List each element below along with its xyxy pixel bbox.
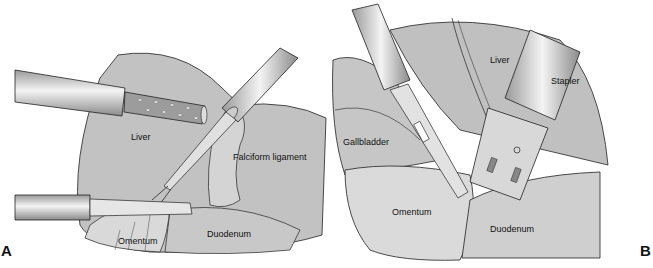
label-omentum-a: Omentum (118, 237, 158, 246)
trocar-lower-a (15, 195, 90, 220)
illustration-canvas (0, 0, 653, 268)
label-omentum-b: Omentum (392, 208, 432, 217)
label-gallbladder-b: Gallbladder (343, 138, 389, 147)
label-liver-a: Liver (131, 133, 151, 142)
panel-letter-b: B (640, 243, 651, 258)
panel-b-drawing (333, 4, 609, 260)
label-liver-b: Liver (490, 56, 510, 65)
label-stapler-b: Stapler (551, 77, 580, 86)
label-duodenum-a: Duodenum (207, 230, 251, 239)
panel-letter-a: A (1, 243, 12, 258)
label-falciform-ligament-a: Falciform ligament (233, 153, 307, 162)
panel-a-drawing (15, 48, 326, 254)
surgical-illustration: Liver Falciform ligament Omentum Duodenu… (0, 0, 653, 268)
label-duodenum-b: Duodenum (490, 225, 534, 234)
